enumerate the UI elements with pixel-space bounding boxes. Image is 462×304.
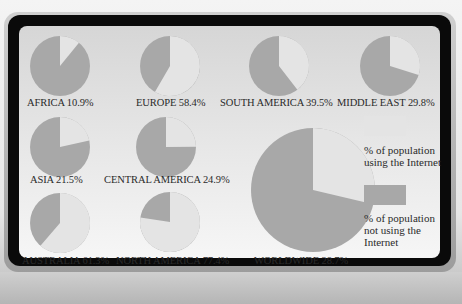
- pie-label: NORTH AMERICA 77.4%: [116, 255, 229, 266]
- pie-europe: [140, 36, 200, 96]
- pie-label: ASIA 21.5%: [30, 174, 83, 185]
- pie-label: AFRICA 10.9%: [27, 97, 93, 108]
- pie-africa: [30, 36, 90, 96]
- pie-middle-east: [360, 36, 420, 96]
- pie-label: EUROPE 58.4%: [136, 97, 205, 108]
- legend-swatch-using: [364, 116, 406, 136]
- pie-worldwide: [251, 128, 375, 252]
- pie-central-america: [136, 117, 196, 177]
- pie-label: MIDDLE EAST 29.8%: [337, 97, 435, 108]
- pie-label: SOUTH AMERICA 39.5%: [220, 97, 333, 108]
- pie-label: AUSTRALIA 61.3%: [22, 255, 109, 266]
- pie-north-america: [140, 192, 200, 252]
- pie-asia: [30, 117, 90, 177]
- pie-label: CENTRAL AMERICA 24.9%: [104, 174, 230, 185]
- pie-label: WORLDWIDE 28.7%: [254, 255, 348, 266]
- legend-swatch-not-using: [364, 185, 406, 205]
- legend-label-not-using: % of population not using the Internet: [364, 212, 444, 248]
- pie-south-america: [249, 36, 309, 96]
- pie-australia: [30, 193, 90, 253]
- legend-label-using: % of population using the Internet: [364, 144, 444, 168]
